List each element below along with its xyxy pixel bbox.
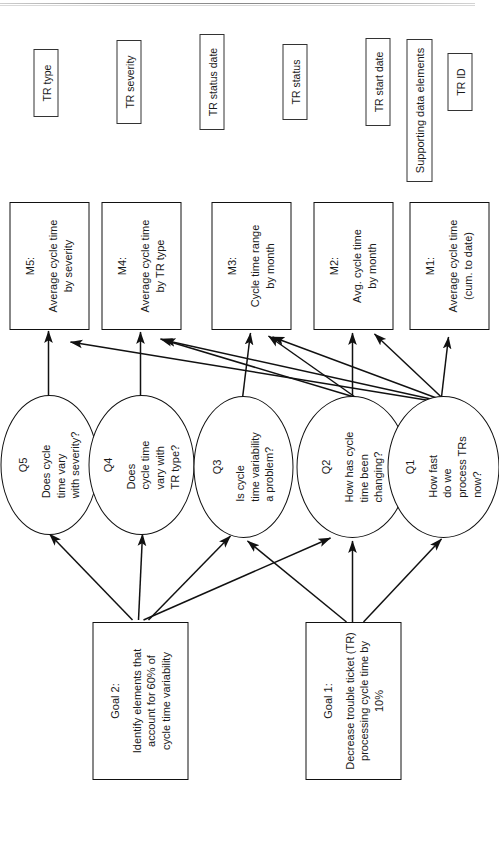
metric-title: M1: (423, 257, 435, 275)
question-title: Q1 (403, 460, 415, 475)
goal-box-goal2[interactable]: Goal 2: Identify elements that account f… (92, 622, 188, 780)
metric-box-m5[interactable]: M5: Average cycle time by severity (9, 202, 89, 330)
edge-goal2-q5 (49, 534, 132, 620)
data-element-tr-status-date[interactable]: TR status date (199, 34, 224, 130)
goal-title: Goal 1: (321, 683, 333, 718)
data-element-tr-start-date[interactable]: TR start date (365, 38, 390, 126)
question-body: How has cycle time been changing? (341, 432, 385, 503)
data-element-tr-severity[interactable]: TR severity (116, 40, 141, 124)
edge-q1-m5 (70, 342, 444, 403)
question-body: How fast do we process TRs now? (425, 436, 483, 498)
question-title: Q4 (101, 458, 113, 473)
metric-body: Avg. cycle time by month (349, 229, 378, 303)
goal-body: Identify elements that account for 60% o… (129, 649, 173, 754)
question-title: Q3 (210, 460, 222, 475)
question-title: Q2 (319, 460, 331, 475)
edge-goal2-q3 (148, 536, 230, 620)
question-body: Does cycle time vary with severity? (38, 432, 82, 499)
edge-goal2-q2 (143, 538, 330, 620)
edge-q1-m2 (374, 334, 444, 400)
question-body: Does cycle time vary with TR type? (123, 441, 181, 490)
question-ellipse-q4[interactable]: Q4 Does cycle time vary with TR type? (88, 395, 194, 535)
metric-title: M5: (23, 257, 35, 275)
metric-title: M3: (225, 257, 237, 275)
metric-box-m1[interactable]: M1: Average cycle time (cum. to date) (409, 202, 489, 330)
question-title: Q5 (16, 458, 28, 473)
question-ellipse-q5[interactable]: Q5 Does cycle time vary with severity? (0, 395, 98, 535)
question-body: Is cycle time variability a problem? (232, 432, 276, 502)
metric-body: Cycle time range by month (247, 225, 276, 308)
goal-body: Decrease trouble ticket (TR) processing … (342, 630, 386, 772)
edge-q2-m4 (160, 339, 357, 398)
edge-q2-m3 (268, 336, 356, 398)
data-element-tr-type[interactable]: TR type (33, 49, 58, 117)
edge-goal1-q1 (363, 539, 441, 622)
metric-body: Average cycle time (cum. to date) (445, 220, 474, 313)
supporting-data-elements-header: Supporting data elements (406, 39, 432, 182)
metric-box-m4[interactable]: M4: Average cycle time by TR type (101, 202, 181, 330)
question-ellipse-q3[interactable]: Q3 Is cycle time variability a problem? (193, 396, 293, 538)
data-element-tr-status[interactable]: TR status (282, 44, 307, 120)
metric-body: Average cycle time by TR type (137, 220, 166, 313)
metric-title: M4: (115, 257, 127, 275)
edge-q1-m1 (441, 337, 448, 397)
metric-title: M2: (327, 257, 339, 275)
question-ellipse-q1[interactable]: Q1 How fast do we process TRs now? (387, 396, 499, 538)
goal-box-goal1[interactable]: Goal 1: Decrease trouble ticket (TR) pro… (305, 622, 401, 780)
data-element-tr-id[interactable]: TR ID (447, 53, 472, 111)
edge-goal2-q4 (138, 534, 142, 620)
metric-box-m3[interactable]: M3: Cycle time range by month (211, 202, 291, 330)
goal-title: Goal 2: (108, 683, 120, 718)
metric-box-m2[interactable]: M2: Avg. cycle time by month (313, 202, 393, 330)
metric-body: Average cycle time by severity (45, 220, 74, 313)
